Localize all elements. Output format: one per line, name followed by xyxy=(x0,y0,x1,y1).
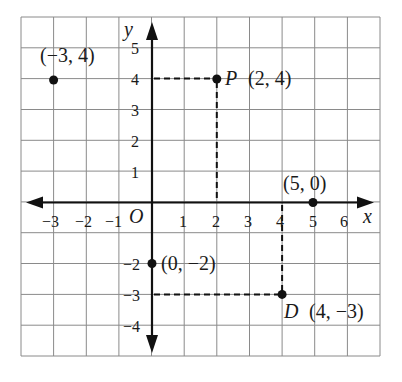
x-tick: −3 xyxy=(42,213,59,230)
y-axis-arrow-up-icon xyxy=(146,22,158,40)
y-tick: 3 xyxy=(131,102,139,119)
x-axis-label: x xyxy=(362,205,372,227)
coordinate-plane: y x O −3 −2 −1 1 2 3 4 5 6 5 4 3 2 1 −2 … xyxy=(0,0,402,382)
point-name-D: D xyxy=(283,300,299,322)
y-tick: −2 xyxy=(123,256,140,273)
point-5-0 xyxy=(309,198,318,207)
y-tick-labels: 5 4 3 2 1 −2 −3 −4 xyxy=(123,40,140,335)
point-name-P: P xyxy=(224,67,237,89)
y-tick: 4 xyxy=(131,71,139,88)
x-tick: 1 xyxy=(179,213,187,230)
x-tick-labels: −3 −2 −1 1 2 3 4 5 6 xyxy=(42,213,348,230)
point-D xyxy=(278,290,287,299)
point-label-P: (2, 4) xyxy=(248,67,291,90)
point-label-5-0: (5, 0) xyxy=(283,172,326,195)
y-tick: −4 xyxy=(123,318,140,335)
point-P xyxy=(212,75,221,84)
y-tick: 1 xyxy=(131,164,139,181)
point-label-D: (4, −3) xyxy=(309,300,364,323)
x-axis-arrow-left-icon xyxy=(26,197,43,209)
y-tick: −3 xyxy=(123,287,140,304)
x-tick: 2 xyxy=(212,213,220,230)
origin-label: O xyxy=(129,205,143,227)
point-label-neg3-4: (−3, 4) xyxy=(40,44,95,67)
x-tick: 3 xyxy=(244,213,252,230)
point-0-neg2 xyxy=(148,259,157,268)
y-axis-arrow-down-icon xyxy=(146,335,158,353)
x-tick: −2 xyxy=(75,213,92,230)
x-tick: 4 xyxy=(276,213,284,230)
y-tick: 5 xyxy=(131,40,139,57)
x-tick: 6 xyxy=(340,213,348,230)
y-axis-label: y xyxy=(122,18,133,41)
point-neg3-4 xyxy=(49,76,58,85)
y-tick: 2 xyxy=(131,133,139,150)
x-tick: 5 xyxy=(309,213,317,230)
x-tick: −1 xyxy=(105,213,122,230)
point-label-0-neg2: (0, −2) xyxy=(161,252,216,275)
